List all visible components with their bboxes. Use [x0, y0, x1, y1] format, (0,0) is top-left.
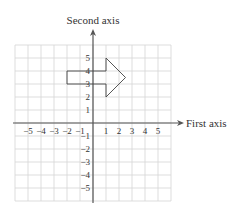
- first-axis-label: First axis: [186, 117, 227, 129]
- second-axis-tick-label: −4: [80, 170, 90, 180]
- first-axis-tick-label: 2: [117, 126, 122, 136]
- first-axis-tick-label: −4: [36, 126, 46, 136]
- first-axis-tick-labels: −5−4−3−2−112345: [23, 126, 161, 136]
- first-axis-tick-label: −3: [49, 126, 59, 136]
- second-axis-tick-label: −3: [80, 157, 90, 167]
- second-axis-tick-label: 2: [86, 92, 91, 102]
- arrow-shape: [67, 58, 126, 97]
- coordinate-plane-figure: −5−4−3−2−112345 54321−1−2−3−4−5 First ax…: [0, 0, 238, 210]
- first-axis-tick-label: 3: [130, 126, 135, 136]
- second-axis-tick-label: 1: [86, 105, 91, 115]
- first-axis-tick-label: −5: [23, 126, 33, 136]
- first-axis-tick-label: 5: [156, 126, 161, 136]
- second-axis-label: Second axis: [67, 14, 120, 26]
- second-axis-tick-label: 5: [86, 53, 91, 63]
- second-axis-tick-label: −2: [80, 144, 90, 154]
- second-axis-tick-label: −5: [80, 183, 90, 193]
- first-axis-tick-label: −2: [62, 126, 72, 136]
- second-axis-tick-label: −1: [80, 131, 90, 141]
- first-axis-tick-label: 1: [104, 126, 109, 136]
- coordinate-plane: −5−4−3−2−112345 54321−1−2−3−4−5 First ax…: [0, 0, 238, 210]
- first-axis-tick-label: 4: [143, 126, 148, 136]
